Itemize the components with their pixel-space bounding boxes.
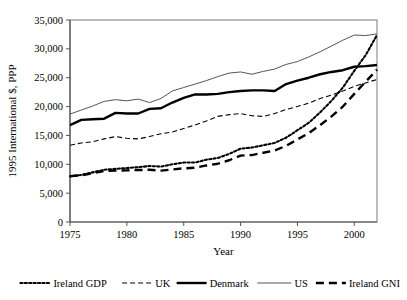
x-axis-title: Year [213,245,234,257]
legend-label-uk: UK [155,278,171,289]
chart-figure: 05,00010,00015,00020,00025,00030,00035,0… [0,0,407,300]
y-tick-label: 0 [58,217,63,228]
y-tick-label: 35,000 [34,15,63,26]
line-chart: 05,00010,00015,00020,00025,00030,00035,0… [0,0,407,300]
y-tick-label: 30,000 [34,43,63,54]
x-tick-label: 1995 [287,229,308,240]
series-line-ireland-gni [70,70,377,176]
series-line-ireland-gdp [70,35,377,176]
y-tick-label: 10,000 [34,159,63,170]
x-tick-label: 1990 [230,229,251,240]
x-tick-label: 1975 [60,229,81,240]
y-tick-label: 15,000 [34,130,63,141]
y-tick-label: 20,000 [34,101,63,112]
legend-label-us: US [294,278,308,289]
legend-label-ireland-gni: Ireland GNI [349,278,401,289]
x-tick-label: 2000 [344,229,365,240]
plot-area-border [70,20,377,222]
x-tick-label: 1985 [173,229,194,240]
x-tick-label: 1980 [116,229,137,240]
legend-label-denmark: Denmark [210,278,250,289]
legend-label-ireland-gdp: Ireland GDP [53,278,107,289]
y-axis-title: 1995 International $, PPP [6,64,18,177]
y-tick-label: 25,000 [34,72,63,83]
y-tick-label: 5,000 [39,188,63,199]
